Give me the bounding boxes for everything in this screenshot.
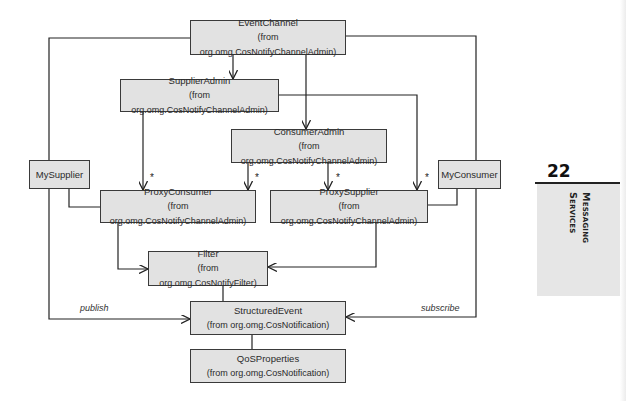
class-name: EventChannel — [191, 15, 345, 30]
class-filter: Filter (from org.omg.CosNotifyFilter) — [148, 251, 268, 286]
class-name: ProxyConsumer — [101, 184, 255, 199]
subscribe-label: subscribe — [421, 303, 460, 313]
chapter-number: 22 — [537, 160, 626, 182]
class-name: Filter — [149, 246, 267, 261]
page-edge-shadow — [620, 0, 626, 401]
class-package: (from org.omg.CosNotifyChannelAdmin) — [232, 139, 386, 169]
class-proxy-consumer: ProxyConsumer (from org.omg.CosNotifyCha… — [100, 190, 256, 223]
class-name: SupplierAdmin — [121, 73, 278, 88]
class-structured-event: StructuredEvent (from org.omg.CosNotific… — [190, 301, 346, 335]
class-my-supplier: MySupplier — [29, 160, 90, 189]
class-name: MyConsumer — [439, 167, 500, 182]
class-consumer-admin: ConsumerAdmin (from org.omg.CosNotifyCha… — [231, 129, 387, 163]
multiplicity-label: * — [336, 172, 340, 183]
chapter-title: Messaging Services — [567, 192, 593, 243]
multiplicity-label: * — [255, 172, 259, 183]
class-name: ProxySupplier — [271, 184, 427, 199]
class-my-consumer: MyConsumer — [438, 160, 501, 189]
class-package: (from org.omg.CosNotifyFilter) — [149, 261, 267, 291]
class-proxy-supplier: ProxySupplier (from org.omg.CosNotifyCha… — [270, 190, 428, 223]
multiplicity-label: * — [150, 172, 154, 183]
class-package: (from org.omg.CosNotifyChannelAdmin) — [101, 199, 255, 229]
chapter-tab: 22 Messaging Services — [537, 160, 626, 296]
chapter-title-tab: Messaging Services — [537, 184, 626, 296]
class-name: StructuredEvent — [191, 303, 345, 318]
multiplicity-label: * — [425, 172, 429, 183]
class-qos-properties: QoSProperties (from org.omg.CosNotificat… — [190, 349, 346, 383]
publish-label: publish — [80, 303, 109, 313]
class-package: (from org.omg.CosNotifyChannelAdmin) — [191, 30, 345, 60]
class-package: (from org.omg.CosNotifyChannelAdmin) — [271, 199, 427, 229]
class-package: (from org.omg.CosNotification) — [191, 318, 345, 333]
chapter-title-line1: Messaging — [581, 192, 592, 243]
class-name: ConsumerAdmin — [232, 124, 386, 139]
class-name: QoSProperties — [191, 351, 345, 366]
class-package: (from org.omg.CosNotifyChannelAdmin) — [121, 88, 278, 118]
class-event-channel: EventChannel (from org.omg.CosNotifyChan… — [190, 20, 346, 55]
class-supplier-admin: SupplierAdmin (from org.omg.CosNotifyCha… — [120, 79, 279, 112]
class-package: (from org.omg.CosNotification) — [191, 366, 345, 381]
class-name: MySupplier — [30, 167, 89, 182]
chapter-title-line2: Services — [568, 192, 579, 234]
